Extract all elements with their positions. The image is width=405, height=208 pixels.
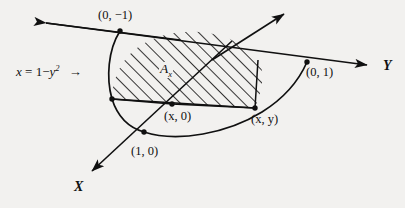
figure-canvas: x = 1−y2 → Ax (0, −1) (0, 1) (x, 0) (x, … [0,0,405,208]
hatched-region [112,32,262,108]
equation-label: x = 1−y2 → [16,64,82,78]
equation-equals: = [25,64,32,79]
label-point-1-0: (1, 0) [131,145,158,158]
equation-pointer-arrow-icon: → [69,64,82,79]
dot-left-edge [109,96,114,101]
region-area-label: Ax [159,62,173,78]
dot-x-0 [169,101,174,106]
dot-0-neg1 [117,28,122,33]
figure-drawing [0,0,405,208]
label-axis-x: X [74,180,83,194]
dot-x-y [252,105,257,110]
dot-0-1 [304,59,309,64]
region-area-subscript: x [168,69,172,79]
equation-rhs-exponent: 2 [55,63,59,73]
label-point-x-0: (x, 0) [164,110,191,123]
region-area-letter: A [160,61,168,76]
label-point-0-1: (0, 1) [306,66,333,79]
equation-lhs: x [16,64,22,79]
label-axis-y: Y [383,59,392,73]
dot-1-0 [141,129,146,134]
label-point-0-neg1: (0, −1) [98,9,132,22]
label-point-x-y: (x, y) [251,113,278,126]
